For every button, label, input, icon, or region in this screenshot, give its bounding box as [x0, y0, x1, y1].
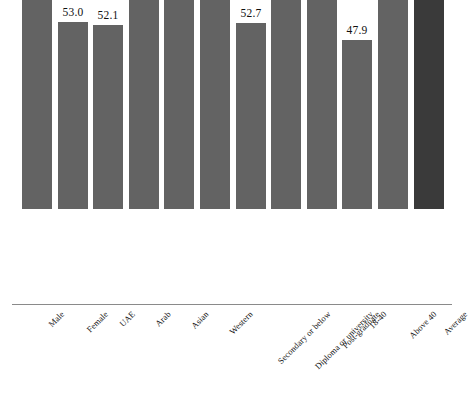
- x-tick-male: Male: [46, 309, 66, 329]
- x-tick-label-text: Female: [85, 309, 110, 334]
- bar-value-label: 47.9: [333, 24, 381, 36]
- bar-secondary-or-below[interactable]: [236, 23, 266, 209]
- x-tick-asian: Asian: [189, 309, 211, 331]
- x-tick-label-text: Male: [46, 309, 66, 329]
- x-tick-label-text: Average: [442, 309, 469, 337]
- bar-value-label: 52.7: [227, 7, 275, 19]
- x-tick-arab: Arab: [153, 309, 173, 329]
- x-tick-label-text: Arab: [153, 309, 173, 329]
- bar-female[interactable]: [58, 22, 88, 209]
- bar-diploma-or-university[interactable]: [271, 0, 301, 209]
- bar-western[interactable]: [200, 0, 230, 209]
- x-tick-label-text: UAE: [117, 309, 137, 329]
- x-tick-label-text: Above 40: [407, 309, 438, 340]
- bar-asian[interactable]: [164, 0, 194, 209]
- x-tick-label-text: Western: [227, 309, 254, 336]
- x-axis-line: [12, 304, 452, 305]
- bar-arab[interactable]: [129, 0, 159, 209]
- bar-male[interactable]: [22, 0, 52, 209]
- x-tick-average: Average: [442, 309, 469, 337]
- bar-average[interactable]: [414, 0, 444, 209]
- bar-uae[interactable]: [93, 25, 123, 209]
- x-tick-above-40: Above 40: [407, 309, 438, 340]
- bar-18-40[interactable]: [342, 40, 372, 209]
- bar-value-label: 52.1: [84, 9, 132, 21]
- x-tick-uae: UAE: [117, 309, 137, 329]
- bar-above-40[interactable]: [378, 0, 408, 209]
- x-tick-female: Female: [85, 309, 110, 334]
- plot-area: 67.753.052.166.263.875.652.762.863.847.9…: [0, 0, 454, 305]
- x-tick-label-text: Asian: [189, 309, 211, 331]
- x-tick-western: Western: [227, 309, 254, 336]
